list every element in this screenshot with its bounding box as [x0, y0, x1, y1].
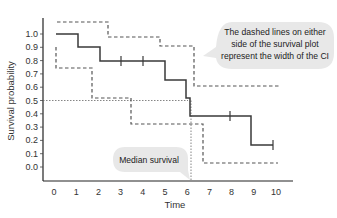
y-tick-label: 0.2 — [25, 135, 38, 145]
x-tick-label: 5 — [162, 187, 167, 197]
x-tick-label: 10 — [271, 187, 281, 197]
censor-marks — [121, 56, 273, 150]
ci-callout-line2: side of the survival plot — [231, 39, 319, 49]
ci-callout-line1: The dashed lines on either — [224, 27, 325, 37]
y-tick-label: 0.0 — [25, 162, 38, 172]
x-axis-title: Time — [165, 199, 186, 210]
median-callout: Median survival — [113, 147, 190, 180]
y-tick-label: 0.9 — [25, 42, 38, 52]
y-tick-label: 0.1 — [25, 149, 38, 159]
y-tick-label: 0.7 — [25, 69, 38, 79]
survival-chart: 1.0 0.9 0.8 0.7 0.6 0.5 0.4 0.3 0.2 0.1 … — [0, 0, 337, 218]
x-tick-label: 3 — [118, 187, 123, 197]
x-tick-label: 9 — [251, 187, 256, 197]
y-tick-label: 0.3 — [25, 122, 38, 132]
y-ticks: 1.0 0.9 0.8 0.7 0.6 0.5 0.4 0.3 0.2 0.1 … — [25, 29, 43, 172]
median-callout-label: Median survival — [119, 155, 179, 165]
y-tick-label: 0.5 — [25, 96, 38, 106]
y-tick-label: 0.6 — [25, 82, 38, 92]
y-axis-title: Survival probability — [5, 61, 16, 141]
y-tick-label: 0.8 — [25, 56, 38, 66]
y-tick-label: 0.4 — [25, 109, 38, 119]
x-ticks: 0 1 2 3 4 5 6 7 8 9 10 — [51, 187, 281, 197]
ci-callout-line3: represent the width of the CI — [221, 51, 329, 61]
ci-callout: The dashed lines on either side of the s… — [203, 22, 334, 69]
y-tick-label: 1.0 — [25, 29, 38, 39]
x-tick-label: 1 — [74, 187, 79, 197]
x-tick-label: 6 — [185, 187, 190, 197]
x-tick-label: 8 — [229, 187, 234, 197]
x-tick-label: 2 — [96, 187, 101, 197]
x-tick-label: 7 — [207, 187, 212, 197]
x-tick-label: 4 — [140, 187, 145, 197]
x-tick-label: 0 — [51, 187, 56, 197]
